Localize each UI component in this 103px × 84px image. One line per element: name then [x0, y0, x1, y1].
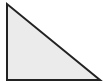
right-triangle — [7, 4, 100, 80]
diagram-canvas — [0, 0, 103, 84]
